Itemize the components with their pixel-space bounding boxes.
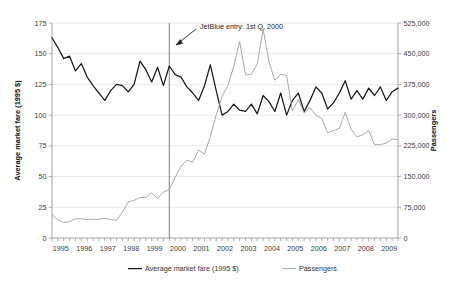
svg-text:450,000: 450,000: [404, 49, 430, 58]
x-axis-tick-labels: 1995199619971998199920002001200220032004…: [53, 244, 397, 253]
svg-text:2005: 2005: [287, 244, 303, 253]
jetblue-entry-annotation-label: JetBlue entry: 1st Q, 2000: [200, 22, 283, 31]
svg-text:150,000: 150,000: [404, 172, 430, 181]
fare-passengers-line-chart: 1995199619971998199920002001200220032004…: [0, 0, 450, 287]
legend-label-average-market-fare[interactable]: Average market fare (1995 $): [145, 264, 239, 273]
svg-text:75,000: 75,000: [404, 203, 426, 212]
svg-text:75: 75: [39, 141, 47, 150]
y-axis-left-title: Average market fare (1995 $): [13, 80, 22, 181]
svg-text:2000: 2000: [170, 244, 186, 253]
svg-text:2007: 2007: [334, 244, 350, 253]
svg-text:0: 0: [404, 234, 408, 243]
y-axis-right-title: Passengers: [429, 110, 438, 152]
svg-text:2009: 2009: [381, 244, 397, 253]
svg-text:0: 0: [43, 234, 47, 243]
svg-text:2008: 2008: [358, 244, 374, 253]
svg-text:150: 150: [35, 49, 47, 58]
svg-text:2004: 2004: [264, 244, 280, 253]
svg-text:1997: 1997: [100, 244, 116, 253]
svg-text:2003: 2003: [240, 244, 256, 253]
svg-text:50: 50: [39, 172, 47, 181]
svg-text:1998: 1998: [123, 244, 139, 253]
svg-text:2006: 2006: [311, 244, 327, 253]
svg-text:1999: 1999: [147, 244, 163, 253]
svg-text:2002: 2002: [217, 244, 233, 253]
svg-text:175: 175: [35, 19, 47, 28]
svg-text:125: 125: [35, 80, 47, 89]
chart-legend: Average market fare (1995 $)Passengers: [128, 264, 337, 273]
svg-text:225,000: 225,000: [404, 141, 430, 150]
svg-text:525,000: 525,000: [404, 19, 430, 28]
svg-text:375,000: 375,000: [404, 80, 430, 89]
chart-container: 1995199619971998199920002001200220032004…: [0, 0, 450, 287]
svg-text:2001: 2001: [194, 244, 210, 253]
svg-text:100: 100: [35, 111, 47, 120]
svg-text:1996: 1996: [76, 244, 92, 253]
svg-text:300,000: 300,000: [404, 111, 430, 120]
svg-text:1995: 1995: [53, 244, 69, 253]
legend-label-passengers[interactable]: Passengers: [299, 264, 337, 273]
svg-text:25: 25: [39, 203, 47, 212]
